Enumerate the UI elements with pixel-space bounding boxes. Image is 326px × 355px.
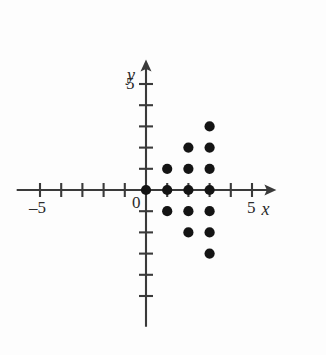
data-point (205, 143, 215, 153)
data-point (205, 121, 215, 131)
data-point (205, 164, 215, 174)
coordinate-plane-figure: x y 0 –5 5 5 (0, 0, 326, 355)
data-point (205, 227, 215, 237)
data-point (205, 185, 215, 195)
data-point (141, 185, 151, 195)
data-point (183, 164, 193, 174)
data-point (183, 206, 193, 216)
plot-canvas (0, 0, 326, 355)
origin-label: 0 (132, 194, 141, 211)
data-point (183, 185, 193, 195)
x-tick-label-neg5: –5 (29, 199, 46, 216)
data-point (205, 206, 215, 216)
x-tick-label-5: 5 (247, 199, 256, 216)
data-point (183, 143, 193, 153)
data-point (205, 249, 215, 259)
data-point (162, 164, 172, 174)
x-axis-label: x (261, 200, 269, 218)
data-point (183, 227, 193, 237)
y-tick-label-5: 5 (126, 75, 135, 92)
data-point (162, 206, 172, 216)
data-point (162, 185, 172, 195)
